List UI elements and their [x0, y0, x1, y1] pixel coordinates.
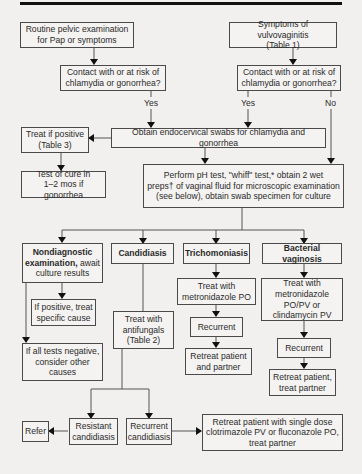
- node-contact-risk-right: Contact with or at risk of chlamydia or …: [237, 65, 341, 91]
- node-trichomoniasis: Trichomoniasis: [183, 243, 250, 264]
- node-resistant-candidiasis: Resistant candidiasis: [69, 418, 118, 445]
- node-if-all-tests-negative: If all tests negative, consider other ca…: [22, 343, 103, 381]
- node-candidiasis: Candidiasis: [111, 243, 174, 264]
- node-retreat-single-dose: Retreat patient with single dose clotrim…: [202, 414, 343, 451]
- edge-label-no-right: No: [325, 98, 336, 108]
- node-treat-if-positive: Treat if positive (Table 3): [21, 127, 89, 153]
- node-treat-bv: Treat with metronidazole PO/PV or clinda…: [261, 278, 343, 321]
- edge-label-yes-left: Yes: [144, 98, 158, 108]
- node-treat-metronidazole-po: Treat with metronidazole PO: [177, 278, 256, 305]
- node-perform-ph-whiff-tests: Perform pH test, "whiff" test,* obtain 2…: [143, 164, 344, 208]
- node-symptoms-vulvovaginitis: Symptoms of vulvovaginitis (Table 1): [229, 22, 337, 48]
- node-contact-risk-left: Contact with or at risk of chlamydia or …: [60, 65, 166, 91]
- node-tricho-recurrent: Recurrent: [190, 317, 243, 337]
- node-if-positive-treat: If positive, treat specific cause: [31, 299, 96, 326]
- node-nondiagnostic-examination: Nondiagnostic examination, await culture…: [22, 243, 103, 283]
- node-test-of-cure: Test of cure in 1–2 mos if gonorrhea: [21, 171, 106, 198]
- node-routine-pelvic-exam: Routine pelvic examination for Pap or sy…: [20, 22, 134, 48]
- node-retreat-patient-treat-partner: Retreat patient, treat partner: [269, 369, 336, 396]
- edge-label-yes-right: Yes: [241, 98, 255, 108]
- node-obtain-endocervical-swabs: Obtain endocervical swabs for chlamydia …: [111, 128, 326, 148]
- node-recurrent-candidiasis: Recurrent candidiasis: [126, 418, 172, 445]
- node-bacterial-vaginosis: Bacterial vaginosis: [262, 243, 342, 264]
- node-retreat-patient-and-partner: Retreat patient and partner: [185, 348, 252, 375]
- node-refer: Refer: [22, 421, 49, 442]
- node-treat-with-antifungals: Treat with antifungals (Table 2): [113, 311, 174, 349]
- node-bv-recurrent: Recurrent: [277, 338, 331, 358]
